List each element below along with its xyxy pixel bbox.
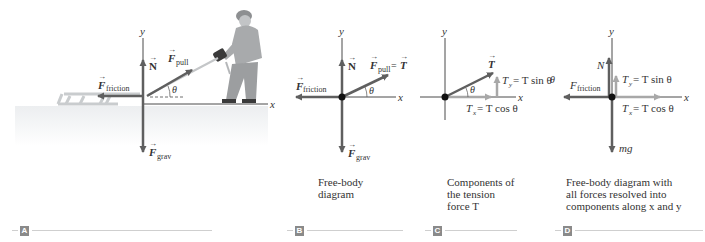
svg-text:= T sin θ: = T sin θ bbox=[633, 73, 672, 85]
svg-text:T: T bbox=[622, 73, 629, 85]
svg-text:→: → bbox=[400, 52, 408, 61]
angle-label-c: θ bbox=[470, 84, 475, 95]
svg-text:pull: pull bbox=[378, 65, 391, 74]
svg-text:→: → bbox=[370, 52, 378, 61]
svg-text:= T cos θ: = T cos θ bbox=[477, 102, 518, 114]
svg-text:T: T bbox=[622, 102, 629, 114]
person-pulling-icon bbox=[212, 10, 262, 103]
svg-text:→: → bbox=[98, 72, 106, 81]
label-tx-d: T x = T cos θ bbox=[622, 102, 674, 117]
label-friction-b: F → friction bbox=[295, 73, 327, 94]
caption-c: Components of the tension force T bbox=[447, 176, 515, 212]
label-pull-a: F → pull bbox=[167, 45, 189, 67]
svg-text:= T cos θ: = T cos θ bbox=[633, 102, 674, 114]
panel-d-resolved bbox=[564, 38, 682, 152]
svg-text:→: → bbox=[348, 53, 356, 62]
svg-text:→: → bbox=[168, 45, 176, 54]
svg-text:T: T bbox=[502, 74, 509, 86]
label-tension-c: T → bbox=[488, 51, 496, 70]
panel-c-labels: y x θ T → T y = T sin θ T x = T cos θ bbox=[441, 25, 552, 117]
label-ty-c: T y = T sin θ bbox=[502, 74, 552, 89]
panel-d-labels: y x θ N F friction mg T y = T sin θ T x … bbox=[550, 25, 689, 154]
y-axis-label-a: y bbox=[139, 25, 145, 37]
x-axis-label-b: x bbox=[397, 91, 403, 103]
label-ty-d: T y = T sin θ bbox=[622, 73, 672, 88]
theta-edge-label-d: θ bbox=[550, 74, 555, 85]
angle-arc-c bbox=[466, 88, 468, 97]
svg-text:F: F bbox=[569, 79, 577, 91]
panel-b-free-body bbox=[296, 38, 396, 152]
angle-arc-b bbox=[365, 87, 367, 97]
svg-text:friction: friction bbox=[303, 85, 327, 94]
panel-tag-a: A bbox=[12, 225, 212, 236]
angle-label-b: θ bbox=[369, 85, 374, 96]
y-axis-label-c: y bbox=[441, 25, 447, 37]
svg-text:friction: friction bbox=[577, 84, 601, 93]
svg-text:→: → bbox=[149, 53, 157, 62]
y-axis-label-b: y bbox=[338, 25, 344, 37]
label-normal-b: N → bbox=[348, 53, 356, 72]
caption-d: Free-body diagram with all forces resolv… bbox=[566, 176, 681, 212]
label-friction-a: F → friction bbox=[97, 72, 130, 93]
tension-vector-arrow bbox=[445, 73, 493, 97]
y-axis-label-d: y bbox=[608, 25, 614, 37]
panel-tag-b: B bbox=[287, 225, 403, 236]
label-normal-d: N bbox=[596, 59, 605, 71]
svg-text:=: = bbox=[391, 60, 397, 71]
x-axis-label-a: x bbox=[269, 98, 275, 110]
caption-b: Free-body diagram bbox=[318, 176, 363, 200]
svg-text:grav: grav bbox=[356, 153, 370, 162]
svg-text:T: T bbox=[466, 102, 473, 114]
svg-text:→: → bbox=[296, 73, 304, 82]
svg-text:→: → bbox=[149, 139, 157, 148]
svg-text:grav: grav bbox=[157, 152, 171, 161]
angle-arc-a bbox=[168, 86, 170, 97]
snow-ground bbox=[15, 106, 268, 146]
label-normal-a: N → bbox=[149, 53, 157, 72]
object-dot-d bbox=[609, 94, 616, 101]
object-dot-c bbox=[442, 94, 449, 101]
angle-label-a: θ bbox=[172, 84, 177, 95]
svg-text:→: → bbox=[348, 140, 356, 149]
label-grav-b: F → grav bbox=[347, 140, 370, 162]
label-tx-c: T x = T cos θ bbox=[466, 102, 518, 117]
pull-force-arrow-b bbox=[342, 75, 388, 97]
x-axis-label-c: x bbox=[517, 91, 523, 103]
panel-tag-c: C bbox=[425, 225, 517, 236]
x-axis-label-d: x bbox=[683, 91, 689, 103]
object-dot-b bbox=[339, 94, 346, 101]
panel-tag-d: D bbox=[555, 225, 703, 236]
svg-text:pull: pull bbox=[176, 58, 189, 67]
svg-text:friction: friction bbox=[106, 84, 130, 93]
label-pull-b: F → pull = T → bbox=[369, 52, 408, 74]
label-mg-d: mg bbox=[619, 142, 633, 154]
label-friction-d: F friction bbox=[569, 79, 601, 93]
svg-text:→: → bbox=[488, 51, 496, 60]
svg-text:= T sin θ: = T sin θ bbox=[513, 74, 552, 86]
